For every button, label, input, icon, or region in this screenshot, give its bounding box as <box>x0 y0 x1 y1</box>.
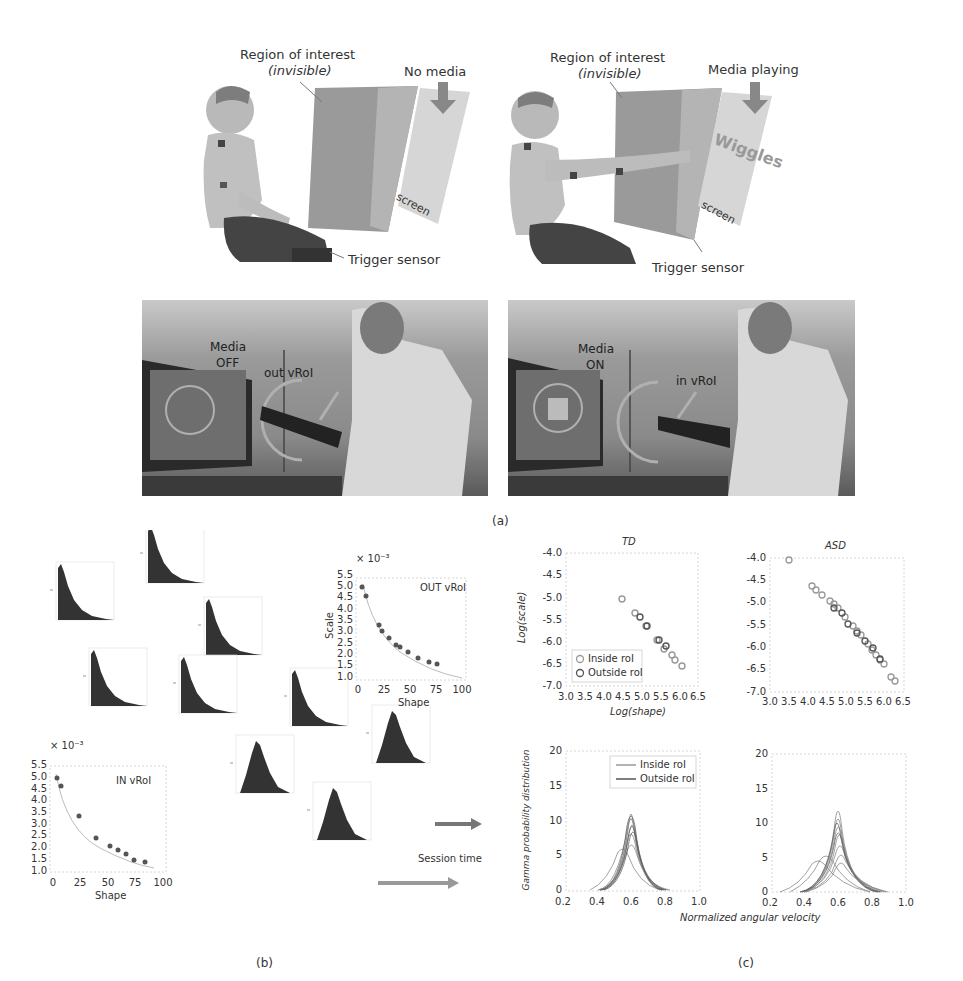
asd-title: ASD <box>825 540 846 551</box>
svg-text:3.5: 3.5 <box>781 696 797 707</box>
svg-text:0.2: 0.2 <box>762 897 778 908</box>
svg-text:-4.5: -4.5 <box>542 569 562 580</box>
svg-text:50: 50 <box>102 877 115 888</box>
svg-text:2.5: 2.5 <box>31 829 47 840</box>
svg-text:100: 100 <box>452 684 471 695</box>
svg-text:0.8: 0.8 <box>657 896 673 907</box>
svg-text:2.0: 2.0 <box>31 841 47 852</box>
svg-text:25: 25 <box>74 877 87 888</box>
svg-text:20: 20 <box>755 748 768 759</box>
svg-text:2.0: 2.0 <box>337 648 353 659</box>
svg-text:3.0: 3.0 <box>558 691 574 702</box>
svg-text:0.2: 0.2 <box>555 896 571 907</box>
svg-text:0.8: 0.8 <box>864 897 880 908</box>
svg-text:0: 0 <box>50 877 56 888</box>
svg-text:5.5: 5.5 <box>857 696 873 707</box>
in-vroi-plot: 5.55.04.5 4.03.53.0 2.52.01.5 1.0 02550 … <box>31 759 172 888</box>
left-photo: Media OFF out vRoI <box>142 300 488 496</box>
svg-text:-4.0: -4.0 <box>746 552 766 563</box>
left-3d-scene <box>180 0 500 300</box>
svg-text:3.0: 3.0 <box>762 696 778 707</box>
svg-text:3.0: 3.0 <box>31 818 47 829</box>
asd-scatter-plot: -4.0-4.5-5.0 -5.5-6.0-6.5 -7.0 3.03.54.0… <box>746 552 910 707</box>
right-3d-scene: Wiggles <box>490 0 810 300</box>
svg-text:4.0: 4.0 <box>596 691 612 702</box>
svg-text:6.5: 6.5 <box>690 691 706 702</box>
svg-text:50: 50 <box>404 684 417 695</box>
svg-text:-4.0: -4.0 <box>542 547 562 558</box>
td-scatter-plot: -4.0-4.5-5.0 -5.5-6.0-6.5 -7.0 3.03.54.0… <box>542 547 705 702</box>
in-vroi-label: in vRoI <box>676 374 717 388</box>
svg-text:15: 15 <box>755 783 768 794</box>
panel-b: 5.55.04.5 4.03.53.0 2.52.01.5 1.0 02550 … <box>0 530 500 981</box>
svg-text:75: 75 <box>129 877 142 888</box>
svg-text:5.0: 5.0 <box>337 580 353 591</box>
svg-text:-5.0: -5.0 <box>746 596 766 607</box>
svg-text:-4.5: -4.5 <box>746 574 766 585</box>
svg-text:15: 15 <box>549 780 562 791</box>
svg-text:4.5: 4.5 <box>31 783 47 794</box>
svg-text:4.0: 4.0 <box>337 603 353 614</box>
media-off-label: Media <box>210 340 246 354</box>
svg-text:5: 5 <box>762 852 768 863</box>
svg-text:0.6: 0.6 <box>623 896 639 907</box>
roi-label-left: Region of interest <box>240 47 355 62</box>
svg-text:-5.5: -5.5 <box>542 614 562 625</box>
media-on-label: Media <box>578 342 614 356</box>
svg-text:5.0: 5.0 <box>31 771 47 782</box>
in-vroi-xlabel: Shape <box>95 890 126 901</box>
media-on-state: ON <box>586 358 604 372</box>
svg-text:0.4: 0.4 <box>796 897 812 908</box>
svg-text:3.5: 3.5 <box>31 806 47 817</box>
svg-text:0: 0 <box>762 886 768 897</box>
svg-text:100: 100 <box>153 877 172 888</box>
scatter-xlabel: Log(shape) <box>610 706 666 717</box>
svg-text:4.5: 4.5 <box>819 696 835 707</box>
svg-text:-6.5: -6.5 <box>746 663 766 674</box>
svg-text:25: 25 <box>378 684 391 695</box>
svg-text:10: 10 <box>549 815 562 826</box>
svg-text:3.5: 3.5 <box>577 691 593 702</box>
panel-c: -4.0-4.5-5.0 -5.5-6.0-6.5 -7.0 3.03.54.0… <box>500 530 963 981</box>
svg-text:10: 10 <box>755 817 768 828</box>
svg-text:5.0: 5.0 <box>634 691 650 702</box>
right-photo: Media ON in vRoI <box>508 300 855 496</box>
svg-text:0: 0 <box>556 884 562 895</box>
svg-text:-6.0: -6.0 <box>746 641 766 652</box>
pdf-legend-outside: Outside roI <box>640 773 695 784</box>
media-label-right: Media playing <box>708 62 799 77</box>
trigger-sensor-label-right: Trigger sensor <box>652 260 744 275</box>
svg-text:5.5: 5.5 <box>653 691 669 702</box>
svg-text:3.5: 3.5 <box>337 614 353 625</box>
in-vroi-title: IN vRoI <box>116 775 151 786</box>
svg-text:5: 5 <box>556 849 562 860</box>
svg-text:1.5: 1.5 <box>31 853 47 864</box>
out-vroi-title: OUT vRoI <box>420 582 466 593</box>
scatter-ylabel: Log(scale) <box>516 592 527 644</box>
svg-text:-6.5: -6.5 <box>542 658 562 669</box>
trigger-sensor-label-left: Trigger sensor <box>348 252 440 267</box>
roi-sublabel-left: (invisible) <box>268 63 332 78</box>
svg-text:1.0: 1.0 <box>691 896 707 907</box>
svg-text:-5.5: -5.5 <box>746 619 766 630</box>
out-vroi-exponent: × 10⁻³ <box>356 553 390 564</box>
svg-text:0: 0 <box>355 684 361 695</box>
svg-text:4.5: 4.5 <box>615 691 631 702</box>
svg-text:3.0: 3.0 <box>337 625 353 636</box>
roi-label-right: Region of interest <box>550 50 665 65</box>
svg-text:-6.0: -6.0 <box>542 636 562 647</box>
media-off-state: OFF <box>216 356 239 370</box>
svg-text:-5.0: -5.0 <box>542 592 562 603</box>
svg-text:4.5: 4.5 <box>337 591 353 602</box>
svg-text:20: 20 <box>549 745 562 756</box>
media-label-left: No media <box>404 64 466 79</box>
svg-text:2.5: 2.5 <box>337 637 353 648</box>
svg-text:-7.0: -7.0 <box>542 680 562 691</box>
panel-a-label: (a) <box>492 514 509 528</box>
svg-text:6.0: 6.0 <box>672 691 688 702</box>
td-scatter-legend-outside: Outside roI <box>588 667 643 678</box>
td-scatter-legend-inside: Inside roI <box>588 653 634 664</box>
roi-sublabel-right: (invisible) <box>578 66 642 81</box>
svg-text:1.0: 1.0 <box>31 865 47 876</box>
svg-text:5.0: 5.0 <box>838 696 854 707</box>
